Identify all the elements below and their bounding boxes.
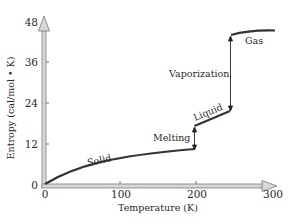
y-tick-48: 48	[25, 16, 38, 28]
x-tick-200: 200	[187, 188, 207, 200]
x-axis	[42, 181, 277, 192]
x-tick-0: 0	[42, 188, 49, 200]
vaporization-label: Vaporization	[168, 68, 229, 79]
x-axis-label: Temperature (K)	[118, 202, 198, 213]
melting-label: Melting	[153, 132, 190, 143]
y-tick-0: 0	[31, 179, 38, 191]
solid-label: Solid	[86, 152, 112, 168]
melting-arrow	[193, 127, 197, 150]
y-axis-label: Entropy (cal/mol • K)	[5, 57, 16, 160]
entropy-chart: 48 36 24 12 0 0 100 200 300 Temperature …	[0, 0, 301, 224]
solid-curve	[45, 149, 195, 184]
y-tick-36: 36	[25, 56, 39, 68]
y-tick-12: 12	[25, 138, 38, 150]
x-tick-300: 300	[263, 188, 283, 200]
y-axis	[39, 16, 50, 187]
x-ticks	[120, 181, 196, 184]
gas-label: Gas	[245, 35, 263, 46]
y-ticks	[46, 62, 49, 144]
y-tick-24: 24	[25, 97, 39, 109]
x-tick-100: 100	[111, 188, 131, 200]
